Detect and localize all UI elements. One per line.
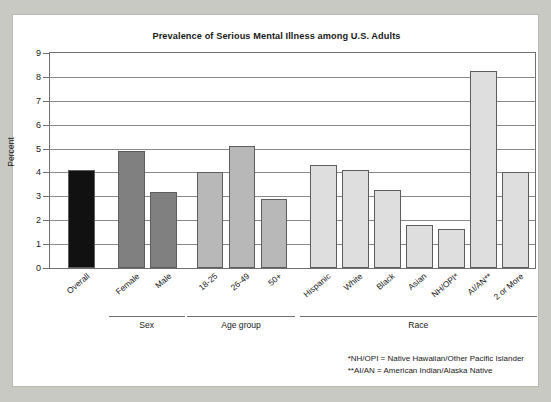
- bar: [118, 151, 145, 268]
- bar: [438, 229, 465, 268]
- y-tick-label: 8: [36, 72, 41, 81]
- bar: [406, 225, 433, 268]
- bar: [197, 172, 224, 268]
- y-tick-label: 1: [36, 240, 41, 249]
- group-label: Age group: [187, 320, 295, 330]
- y-axis-tick-labels: 0123456789: [13, 52, 45, 269]
- bar: [229, 146, 256, 268]
- group-bracket: [187, 316, 295, 317]
- screenshot-root: Prevalence of Serious Mental Illness amo…: [0, 0, 551, 402]
- y-tick-label: 5: [36, 144, 41, 153]
- footnote-line: *NH/OPI = Native Hawaiian/Other Pacific …: [348, 353, 524, 365]
- group-bracket: [109, 316, 185, 317]
- group-label: Race: [300, 320, 536, 330]
- gridline: [50, 125, 535, 126]
- y-tick-label: 2: [36, 216, 41, 225]
- bar: [261, 199, 288, 268]
- chart-title: Prevalence of Serious Mental Illness amo…: [13, 31, 540, 41]
- bar: [374, 190, 401, 268]
- group-label: Sex: [109, 320, 185, 330]
- group-bracket: [300, 316, 536, 317]
- bar: [150, 192, 177, 268]
- y-tick-label: 6: [36, 120, 41, 129]
- y-tick-label: 7: [36, 96, 41, 105]
- bar: [68, 170, 95, 268]
- y-tick-label: 3: [36, 192, 41, 201]
- y-tick-label: 9: [36, 49, 41, 58]
- gridline: [50, 101, 535, 102]
- footnote-line: **AI/AN = American Indian/Alaska Native: [348, 365, 524, 377]
- gridline: [50, 77, 535, 78]
- gridline: [50, 149, 535, 150]
- chart-card: Prevalence of Serious Mental Illness amo…: [12, 14, 539, 387]
- bar: [470, 71, 497, 268]
- x-axis-tick-labels: OverallFemaleMale18-2526-4950+HispanicWh…: [49, 271, 536, 321]
- bar: [342, 170, 369, 268]
- y-tick-label: 0: [36, 264, 41, 273]
- y-tick-label: 4: [36, 168, 41, 177]
- chart-footnotes: *NH/OPI = Native Hawaiian/Other Pacific …: [348, 353, 524, 376]
- x-tick-label: Overall: [49, 271, 91, 308]
- bar: [502, 172, 529, 268]
- plot-area: [49, 52, 536, 269]
- bar: [310, 165, 337, 268]
